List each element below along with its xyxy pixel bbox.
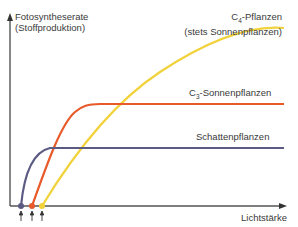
- c3-label: C3-Sonnenpflanzen: [189, 87, 271, 102]
- x-axis-arrow-icon: [279, 203, 287, 209]
- c3-compensation-dot: [29, 203, 35, 209]
- shade-compensation-dot: [18, 203, 24, 209]
- y-axis-arrow-icon: [7, 13, 13, 21]
- compensation-arrow-icons: [19, 211, 43, 221]
- series-c3-line: [32, 104, 284, 206]
- c4-label-note: (stets Sonnenpflanzen): [184, 26, 282, 37]
- y-axis-label: Fotosyntheserate (Stoffproduktion): [15, 11, 88, 33]
- c4-label-title: C4-Pflanzen: [184, 11, 282, 26]
- c4-label: C4-Pflanzen (stets Sonnenpflanzen): [184, 11, 282, 37]
- y-axis-label-line2: (Stoffproduktion): [15, 22, 88, 33]
- x-axis-label: Lichtstärke: [241, 212, 287, 223]
- shade-label: Schattenpflanzen: [196, 131, 269, 142]
- c4-compensation-dot: [39, 203, 45, 209]
- series-c4-line: [42, 28, 284, 206]
- y-axis-label-line1: Fotosyntheserate: [15, 11, 88, 22]
